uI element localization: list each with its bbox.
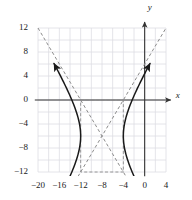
y-tick-label: 8 <box>2 46 28 56</box>
plot-canvas <box>0 0 192 200</box>
y-tick-label: 0 <box>2 94 28 104</box>
y-axis-name: y <box>148 2 152 12</box>
x-tick-label: 4 <box>152 180 180 190</box>
y-tick-label: 12 <box>2 22 28 32</box>
hyperbola-chart: 12840−4−8−12−20−16−12−8−404xy <box>0 0 192 200</box>
y-tick-label: 4 <box>2 70 28 80</box>
y-tick-label: −12 <box>2 166 28 176</box>
y-tick-label: −8 <box>2 142 28 152</box>
x-axis-name: x <box>176 90 180 100</box>
axes <box>35 22 171 176</box>
y-tick-label: −4 <box>2 118 28 128</box>
